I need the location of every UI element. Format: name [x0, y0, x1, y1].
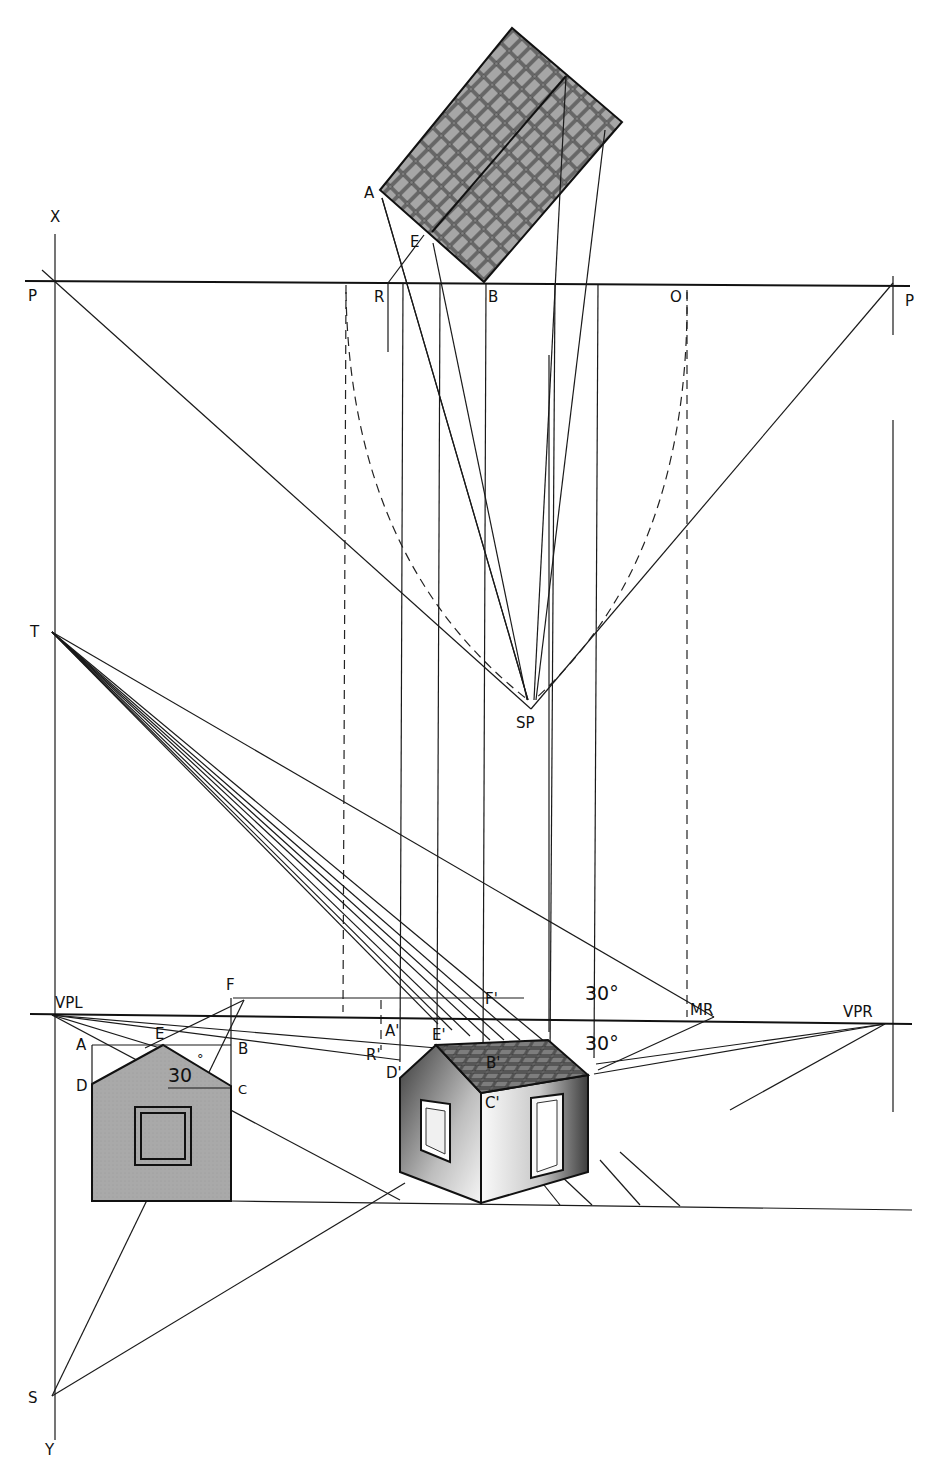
- vertical-projectors: [388, 283, 598, 1062]
- picture-plane-line: [25, 281, 910, 286]
- label-t: T: [29, 623, 40, 641]
- label-persp-d: D': [386, 1064, 402, 1082]
- label-vpr: VPR: [843, 1003, 873, 1021]
- label-angle-upper: 30°: [585, 982, 619, 1004]
- label-elev-f: F: [226, 976, 235, 994]
- label-plan-e: E: [410, 233, 419, 251]
- label-vpl: VPL: [55, 994, 83, 1012]
- label-persp-e: E': [432, 1026, 446, 1044]
- label-elev-angle: 30: [168, 1064, 192, 1086]
- label-elev-a: A: [76, 1036, 87, 1054]
- label-x: X: [50, 208, 60, 226]
- label-persp-c: C': [485, 1094, 500, 1112]
- vpr-rays: [594, 1017, 885, 1110]
- label-elev-e: E: [155, 1025, 164, 1043]
- ray-p-right-to-sp: [531, 283, 893, 709]
- label-elev-degree: °: [197, 1051, 204, 1066]
- label-persp-a: A': [385, 1022, 399, 1040]
- label-persp-b: B': [486, 1054, 500, 1072]
- label-persp-r: R': [366, 1046, 381, 1064]
- ray-p-left-to-sp: [42, 270, 531, 709]
- label-elev-b: B: [238, 1040, 248, 1058]
- label-elev-c: C: [238, 1082, 247, 1097]
- label-angle-lower: 30°: [585, 1032, 619, 1054]
- perspective-diagram: X P P A E R B O SP T S Y VPL VPR MR F E …: [0, 0, 937, 1477]
- label-mr: MR: [690, 1001, 713, 1019]
- label-plan-o: O: [670, 288, 682, 306]
- ground-line: [230, 1201, 912, 1210]
- label-plan-r: R: [374, 288, 384, 306]
- label-sp: SP: [516, 714, 535, 732]
- label-s: S: [28, 1389, 38, 1407]
- label-y: Y: [44, 1441, 55, 1459]
- label-plan-a: A: [364, 184, 375, 202]
- label-plan-b: B: [488, 288, 498, 306]
- label-elev-d: D: [76, 1077, 88, 1095]
- arc-right: [534, 292, 687, 700]
- label-p-left: P: [28, 287, 37, 305]
- label-persp-f: F': [485, 990, 498, 1008]
- t-rays: [52, 632, 714, 1042]
- label-p-right: P: [905, 292, 914, 310]
- arc-left: [346, 292, 528, 700]
